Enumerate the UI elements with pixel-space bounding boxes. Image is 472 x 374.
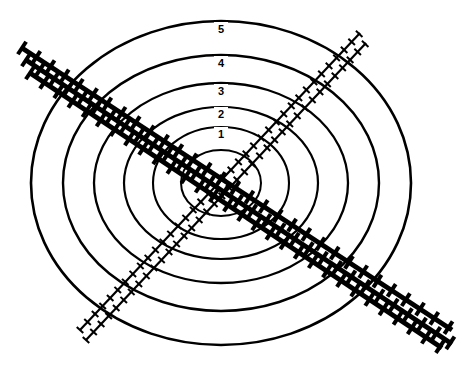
ring-label-2: 2 bbox=[218, 108, 224, 120]
diagram-canvas: 54321 bbox=[0, 0, 472, 374]
range-ring-railway-diagram: 54321 bbox=[0, 0, 472, 374]
ring-label-3: 3 bbox=[218, 85, 224, 97]
ring-label-1: 1 bbox=[218, 128, 224, 140]
ring-label-4: 4 bbox=[218, 57, 225, 69]
ring-label-5: 5 bbox=[218, 23, 224, 35]
